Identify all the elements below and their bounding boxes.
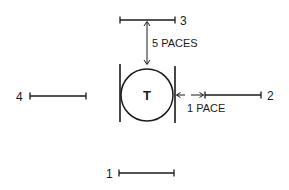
position-4-label: 4 bbox=[16, 90, 23, 104]
position-2-marker bbox=[205, 92, 261, 99]
drill-layout-diagram: T 3 2 4 1 5 PACES 1 PACE bbox=[0, 0, 289, 190]
one-pace-label: 1 PACE bbox=[187, 102, 225, 114]
position-3-label: 3 bbox=[180, 14, 187, 28]
target-label: T bbox=[143, 88, 151, 103]
five-paces-arrow bbox=[144, 22, 150, 65]
five-paces-label: 5 PACES bbox=[152, 37, 198, 49]
position-1-label: 1 bbox=[106, 167, 113, 181]
position-2-label: 2 bbox=[267, 89, 274, 103]
one-pace-arrow bbox=[177, 93, 204, 98]
position-1-marker bbox=[119, 170, 174, 177]
position-4-marker bbox=[30, 93, 86, 100]
